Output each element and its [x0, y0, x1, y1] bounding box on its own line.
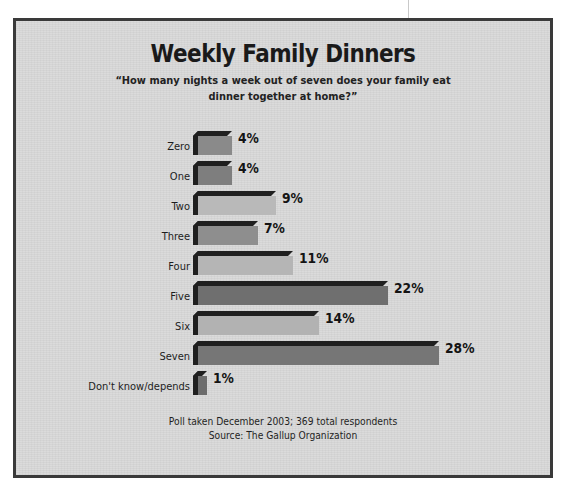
bar-2 [193, 161, 227, 185]
bar-5 [193, 251, 288, 275]
footnote-line-1: Poll taken December 2003; 369 total resp… [43, 415, 524, 429]
bar-row: Six14% [16, 305, 550, 335]
scan-artifact-line [408, 0, 409, 19]
bar-value-label: 4% [238, 130, 259, 146]
bar-value-label: 22% [394, 280, 423, 296]
bar-value-label: 7% [264, 220, 285, 236]
bar-category-label: Five [10, 290, 190, 303]
bar-front-face [198, 286, 388, 305]
bar-value-label: 14% [325, 310, 354, 326]
bar-7 [193, 311, 314, 335]
bar-front-face [198, 256, 293, 275]
bar-category-label: Three [10, 230, 190, 243]
bar-row: One4% [16, 155, 550, 185]
bar-category-label: Seven [10, 350, 190, 363]
chart-frame: Weekly Family Dinners “How many nights a… [13, 18, 553, 478]
bar-value-label: 4% [238, 160, 259, 176]
bar-category-label: Don't know/depends [10, 380, 190, 393]
chart-title: Weekly Family Dinners [53, 39, 512, 68]
bar-row: Zero4% [16, 125, 550, 155]
bar-value-label: 28% [445, 340, 474, 356]
bar-category-label: One [10, 170, 190, 183]
chart-inner: Weekly Family Dinners “How many nights a… [16, 21, 550, 475]
plot-area: Zero4%One4%Two9%Three7%Four11%Five22%Six… [16, 125, 550, 415]
bar-value-label: 9% [282, 190, 303, 206]
bar-category-label: Six [10, 320, 190, 333]
bar-9 [193, 371, 202, 395]
bar-row: Three7% [16, 215, 550, 245]
bar-6 [193, 281, 383, 305]
bar-category-label: Four [10, 260, 190, 273]
bar-front-face [198, 226, 258, 245]
bar-category-label: Two [10, 200, 190, 213]
bar-3 [193, 191, 271, 215]
bar-row: Two9% [16, 185, 550, 215]
chart-subtitle: “How many nights a week out of seven doe… [111, 73, 454, 105]
bar-value-label: 11% [299, 250, 328, 266]
footnote-line-2: Source: The Gallup Organization [43, 429, 524, 443]
bar-4 [193, 221, 253, 245]
bar-category-label: Zero [10, 140, 190, 153]
bar-1 [193, 131, 227, 155]
chart-screenshot: Weekly Family Dinners “How many nights a… [0, 0, 564, 491]
bar-value-label: 1% [213, 370, 234, 386]
chart-footnote: Poll taken December 2003; 369 total resp… [43, 415, 524, 443]
bar-front-face [198, 376, 207, 395]
bar-front-face [198, 196, 276, 215]
bar-front-face [198, 316, 319, 335]
bar-row: Seven28% [16, 335, 550, 365]
bar-front-face [198, 166, 232, 185]
bar-row: Four11% [16, 245, 550, 275]
bar-front-face [198, 136, 232, 155]
bar-front-face [198, 346, 439, 365]
bar-row: Don't know/depends1% [16, 365, 550, 395]
bar-8 [193, 341, 434, 365]
bar-row: Five22% [16, 275, 550, 305]
